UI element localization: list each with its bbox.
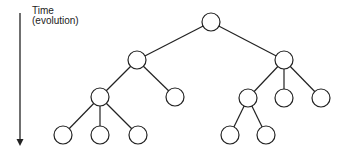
tree-node (275, 89, 293, 107)
tree-node (129, 126, 147, 144)
tree-edge (137, 22, 211, 60)
tree-node (128, 51, 146, 69)
tree-edge (211, 22, 284, 60)
tree-node (91, 88, 109, 106)
tree-node (54, 126, 72, 144)
tree-node (257, 126, 275, 144)
tree-node (275, 51, 293, 69)
tree-node (239, 89, 257, 107)
tree-node (166, 88, 184, 106)
arrow-head-icon (17, 139, 24, 146)
tree-node (91, 126, 109, 144)
tree-node (312, 89, 330, 107)
evolution-label: (evolution) (32, 16, 79, 26)
tree-node (202, 13, 220, 31)
time-axis-label: Time (evolution) (32, 6, 79, 26)
evolution-tree-diagram: Time (evolution) (0, 0, 357, 154)
tree-node (221, 126, 239, 144)
